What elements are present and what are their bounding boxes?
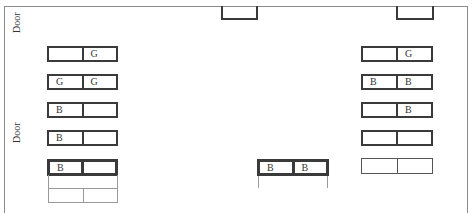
seat[interactable]: G — [82, 48, 117, 60]
desk-left-1[interactable]: G — [47, 46, 118, 62]
seat[interactable]: B — [49, 132, 82, 144]
seat[interactable] — [363, 104, 396, 116]
seat[interactable]: B — [50, 162, 81, 173]
seat[interactable] — [363, 48, 396, 60]
desk-center[interactable]: B B — [257, 159, 329, 176]
center-desk-leg-left — [258, 176, 259, 188]
desk-right-1[interactable]: G — [361, 46, 433, 62]
seat[interactable] — [81, 162, 115, 173]
seat[interactable] — [362, 159, 397, 173]
desk-right-4[interactable] — [361, 130, 433, 146]
desk-left-5[interactable]: B — [47, 159, 118, 176]
center-desk-leg-right — [327, 176, 328, 188]
seat[interactable] — [397, 159, 433, 173]
bench-left-1 — [48, 175, 118, 189]
desk-left-4[interactable]: B — [47, 130, 118, 146]
desk-left-2[interactable]: G G — [47, 74, 118, 90]
door-label-top: Door — [11, 12, 22, 33]
seat[interactable]: G — [49, 76, 82, 88]
door-label-middle: Door — [11, 122, 22, 143]
seat[interactable] — [82, 104, 117, 116]
top-fixture-right — [396, 6, 434, 20]
seat[interactable]: B — [396, 76, 431, 88]
desk-right-3[interactable]: B — [361, 102, 433, 118]
desk-right-2[interactable]: B B — [361, 74, 433, 90]
top-fixture-center — [221, 6, 258, 20]
seat[interactable] — [363, 132, 396, 144]
bench-divider — [83, 189, 84, 203]
seat[interactable]: B — [260, 162, 292, 173]
seat[interactable]: B — [396, 104, 431, 116]
seat[interactable]: G — [82, 76, 117, 88]
desk-left-3[interactable]: B — [47, 102, 118, 118]
desk-right-5[interactable] — [361, 158, 433, 174]
seat[interactable]: G — [396, 48, 431, 60]
seat[interactable]: B — [363, 76, 396, 88]
seat[interactable] — [396, 132, 431, 144]
seat[interactable] — [82, 132, 117, 144]
seat[interactable]: B — [292, 162, 327, 173]
seat[interactable] — [49, 48, 82, 60]
seat[interactable]: B — [49, 104, 82, 116]
